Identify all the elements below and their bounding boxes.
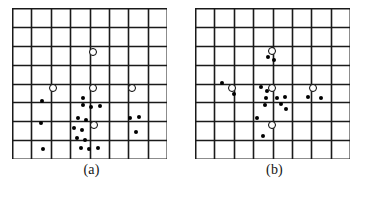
panel-a-grid-lines (12, 8, 167, 159)
panel-b: (b) (183, 0, 366, 197)
panel-a: (a) (0, 0, 183, 197)
panel-a-caption: (a) (0, 162, 183, 178)
panel-b-grid-lines (195, 8, 350, 159)
panel-b-grid (195, 8, 350, 159)
panel-b-caption: (b) (183, 162, 366, 178)
panel-a-grid (12, 8, 167, 159)
figure-root: (a) (b) (0, 0, 366, 197)
